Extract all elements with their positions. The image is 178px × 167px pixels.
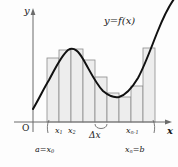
riemann-sum-figure: y=f(x) y x O x1 x2 Δx xn-1 a=x0 xn=b: [0, 0, 178, 167]
x1-label: x1: [55, 127, 63, 135]
xn-minus-1-label: xn-1: [126, 127, 139, 135]
rectangle-bar: [143, 48, 155, 122]
y-axis: [31, 8, 36, 132]
delta-x-brace: [95, 124, 107, 129]
rectangle-bar: [71, 49, 83, 122]
x1-subscript: 1: [60, 129, 63, 135]
a-equals-x0-base: a=x: [35, 145, 51, 154]
x2-label: x2: [68, 127, 76, 135]
figure-canvas: [0, 0, 178, 167]
y-axis-arrow: [31, 8, 36, 15]
a-equals-x0-subscript: 0: [51, 148, 54, 154]
x2-subscript: 2: [73, 129, 76, 135]
rectangle-bar: [47, 58, 59, 122]
xn-equals-b-label: xn=b: [125, 146, 145, 154]
rectangle-bar: [131, 86, 143, 122]
x-axis-label: x: [167, 126, 173, 136]
rectangle-bar: [119, 97, 131, 122]
function-label: y=f(x): [104, 16, 135, 26]
xn-equals-b-tail: =b: [133, 145, 145, 154]
a-equals-x0-label: a=x0: [35, 146, 54, 154]
riemann-rectangles: [47, 48, 155, 122]
delta-x-label: Δx: [89, 131, 101, 140]
xn-minus-1-subscript: n-1: [131, 129, 139, 135]
y-axis-label: y: [24, 6, 30, 16]
origin-label: O: [22, 124, 29, 133]
x-axis-arrow: [165, 120, 172, 125]
